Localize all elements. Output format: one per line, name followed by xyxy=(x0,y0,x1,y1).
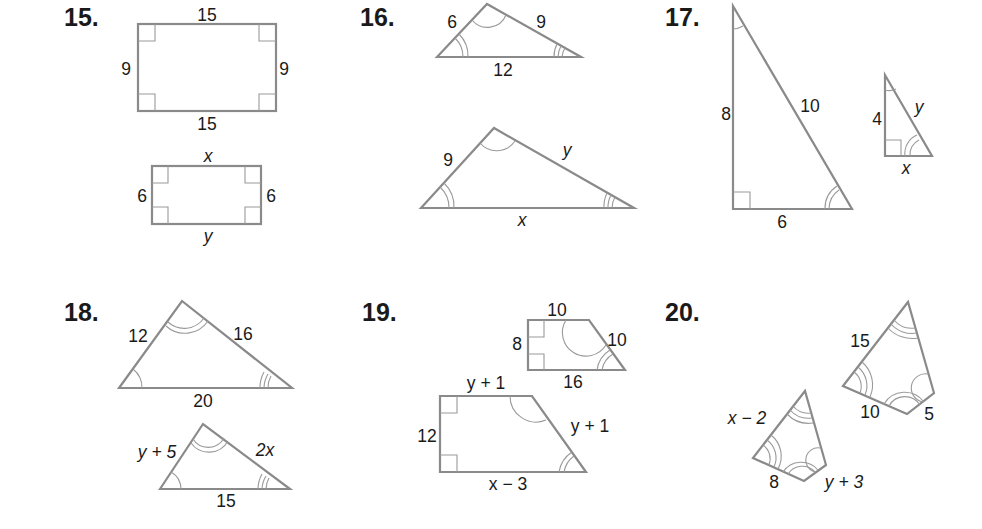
right-angle-marks xyxy=(440,396,457,472)
right-angle-marks xyxy=(528,320,544,370)
rectangle-outline xyxy=(138,24,276,111)
right-angle-mark xyxy=(885,140,901,156)
side-label-vertical: 4 xyxy=(872,109,882,129)
problem-15: 15. 15 15 9 9 x y 6 6 xyxy=(64,3,289,246)
angle-mark-double xyxy=(884,392,924,406)
side-label-slant: y + 1 xyxy=(571,416,609,436)
angle-mark-single xyxy=(480,141,515,151)
side-label-left: 15 xyxy=(850,331,869,351)
angle-mark-double xyxy=(783,462,818,474)
side-label-slant: 10 xyxy=(607,330,627,350)
problem-number: 17. xyxy=(665,3,700,31)
small-quadrilateral: x − 2 8 y + 3 xyxy=(727,391,864,492)
side-label-right: 5 xyxy=(924,404,934,424)
large-right-triangle: 8 10 6 xyxy=(721,6,852,232)
large-quadrilateral: 15 10 5 xyxy=(843,302,934,424)
side-label-bottom: 8 xyxy=(769,472,779,492)
side-label-right: 16 xyxy=(233,324,252,344)
side-label-base: 12 xyxy=(493,60,512,80)
side-label-hypotenuse: 10 xyxy=(800,96,820,116)
angle-mark-single xyxy=(806,448,820,472)
small-right-triangle: 4 y x xyxy=(872,75,932,178)
large-rectangle: 15 15 9 9 xyxy=(121,5,289,134)
small-trapezoid: 10 8 10 16 xyxy=(512,300,627,392)
side-label-top: x xyxy=(203,146,214,166)
side-label-left: 12 xyxy=(417,426,436,446)
angle-mark-double xyxy=(440,183,454,208)
side-label-base: 20 xyxy=(193,391,213,411)
side-label-right: 9 xyxy=(279,59,289,79)
problem-18: 18. 12 16 20 y + 5 2x 15 xyxy=(64,298,292,511)
angle-mark-double xyxy=(559,452,574,472)
problem-20: 20. 15 10 5 x − 2 8 y + 3 xyxy=(665,298,934,492)
side-label-horizontal: x xyxy=(901,158,912,178)
large-triangle: 6 9 12 xyxy=(437,4,581,80)
side-label-bottom: y xyxy=(203,226,214,246)
side-label-top: 15 xyxy=(197,5,216,25)
triangle-outline xyxy=(733,6,852,209)
angle-mark-double xyxy=(166,318,208,333)
side-label-right: 9 xyxy=(536,12,546,32)
small-triangle: 9 y x xyxy=(421,128,634,230)
side-label-left: x − 2 xyxy=(727,408,767,428)
side-label-top: 10 xyxy=(547,300,567,320)
angle-mark-double xyxy=(191,438,228,452)
side-label-left: 6 xyxy=(137,186,147,206)
problem-number: 15. xyxy=(64,3,99,31)
side-label-top: y + 1 xyxy=(467,373,505,393)
side-label-left: 8 xyxy=(512,334,522,354)
side-label-bottom: 16 xyxy=(563,372,582,392)
side-label-right: 6 xyxy=(266,186,276,206)
side-label-right: y + 3 xyxy=(824,472,864,492)
right-angle-marks xyxy=(152,166,261,224)
side-label-left: 12 xyxy=(128,326,147,346)
side-label-left: 9 xyxy=(121,59,131,79)
side-label-right: y xyxy=(562,140,573,160)
angle-mark-single xyxy=(171,472,181,489)
angle-mark-double xyxy=(597,350,613,370)
problem-number: 20. xyxy=(665,298,700,326)
side-label-base: 15 xyxy=(216,491,235,511)
angle-mark-double xyxy=(825,186,839,209)
side-label-vertical: 8 xyxy=(721,104,731,124)
right-angle-marks xyxy=(138,24,276,111)
side-label-bottom: 15 xyxy=(197,114,216,134)
angle-mark-single xyxy=(733,26,743,29)
side-label-bottom: x − 3 xyxy=(489,474,527,494)
problem-number: 18. xyxy=(64,298,99,326)
angle-mark-single xyxy=(133,369,142,388)
side-label-horizontal: 6 xyxy=(777,212,787,232)
side-label-right: 2x xyxy=(255,440,276,460)
angle-mark-single xyxy=(562,320,606,356)
problem-19: 19. 10 8 10 16 y + 1 12 y + 1 x − 3 xyxy=(362,298,627,494)
small-rectangle: x y 6 6 xyxy=(137,146,276,246)
side-label-left: 6 xyxy=(447,12,457,32)
problem-16: 16. 6 9 12 9 y x xyxy=(360,3,634,230)
problem-17: 17. 8 10 6 4 y x xyxy=(665,3,932,232)
angle-mark-triple xyxy=(258,474,269,489)
right-angle-mark xyxy=(733,192,750,209)
angle-mark-double xyxy=(905,135,919,156)
problem-number: 16. xyxy=(360,3,395,31)
large-triangle: 12 16 20 xyxy=(119,301,292,411)
side-label-bottom: 10 xyxy=(860,402,880,422)
problem-number: 19. xyxy=(362,298,397,326)
triangle-outline xyxy=(885,75,932,156)
angle-mark-triple xyxy=(260,372,271,388)
angle-mark-single xyxy=(472,15,506,27)
side-label-hypotenuse: y xyxy=(914,97,925,117)
small-triangle: y + 5 2x 15 xyxy=(137,424,290,511)
side-label-left: y + 5 xyxy=(137,442,177,462)
side-label-base: x xyxy=(517,210,528,230)
worksheet-figures: 15. 15 15 9 9 x y 6 6 16. 6 9 12 xyxy=(0,0,982,529)
side-label-left: 9 xyxy=(443,150,453,170)
